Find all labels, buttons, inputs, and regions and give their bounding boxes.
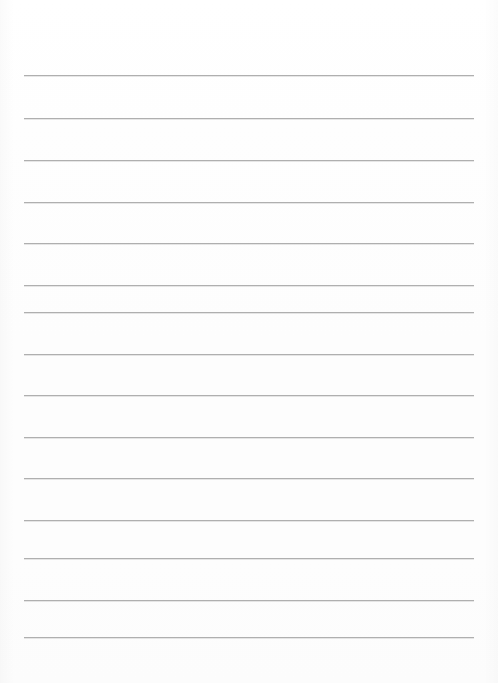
writing-area[interactable]	[24, 75, 474, 637]
lined-paper-page	[0, 0, 498, 683]
bottom-margin-blank-area	[0, 637, 498, 683]
